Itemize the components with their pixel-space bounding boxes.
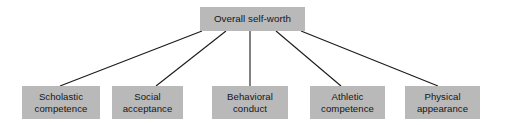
node-scholastic-competence: Scholastic competence (22, 86, 100, 119)
connector-line-physical-appearance (301, 31, 438, 86)
node-label-social-acceptance: Social acceptance (120, 91, 176, 114)
node-label-behavioral-conduct: Behavioral conduct (224, 91, 276, 114)
node-athletic-competence: Athletic competence (310, 86, 385, 119)
node-label-overall-self-worth: Overall self-worth (211, 13, 294, 24)
node-behavioral-conduct: Behavioral conduct (212, 86, 288, 119)
self-worth-hierarchy-diagram: Overall self-worth Scholastic competence… (0, 0, 508, 125)
node-label-scholastic-competence: Scholastic competence (32, 91, 91, 114)
node-overall-self-worth: Overall self-worth (200, 7, 305, 31)
node-label-athletic-competence: Athletic competence (318, 91, 377, 114)
node-physical-appearance: Physical appearance (405, 86, 480, 119)
connector-line-social-acceptance (156, 31, 226, 86)
connector-line-athletic-competence (276, 31, 341, 86)
node-social-acceptance: Social acceptance (112, 86, 183, 119)
connector-line-scholastic-competence (60, 31, 202, 86)
node-label-physical-appearance: Physical appearance (414, 91, 471, 114)
